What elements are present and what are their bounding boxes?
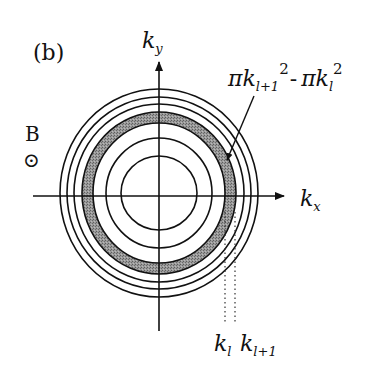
sup-2b: 2 [333,60,343,78]
minus-sign: - [290,66,297,91]
kl1-main: k [240,331,253,356]
kx-main: k [300,186,313,211]
band-area-annotation: πkl+12-πkl2 [228,62,343,93]
pi-1: π [228,66,242,91]
kl1-label: kl+1 [240,333,277,358]
kl-sub: l [227,344,231,359]
field-out-of-page-icon: ⊙ [23,150,40,170]
pi-2: π [301,66,315,91]
sub-l-plus-1: l+1 [256,79,279,94]
kl-label: kl [214,333,232,358]
panel-label: (b) [33,42,64,64]
k-1: k [242,66,255,91]
ky-axis-label: ky [142,30,163,55]
k-2: k [316,66,329,91]
kl1-sub: l+1 [253,344,276,359]
sup-2a: 2 [279,60,289,78]
kx-axis-label: kx [300,188,321,213]
ky-main: k [142,28,155,53]
kx-sub: x [313,199,320,214]
sub-l: l [329,79,333,94]
magnetic-field-label: B [25,124,40,144]
kl-main: k [214,331,227,356]
ky-sub: y [155,41,162,56]
